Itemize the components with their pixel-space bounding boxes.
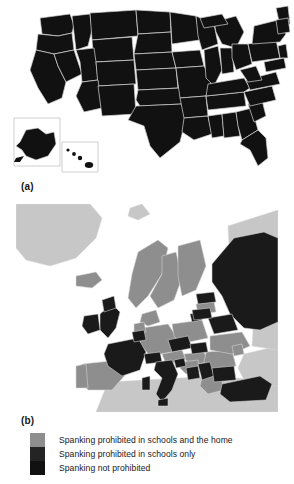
united-states-map-svg bbox=[0, 0, 294, 180]
legend-swatch-icon-schools-and-home bbox=[30, 433, 45, 447]
country-slovakia bbox=[190, 342, 208, 354]
hawaii-island-1 bbox=[66, 148, 69, 151]
legend-item-not-prohibited: Spanking not prohibited bbox=[30, 461, 280, 475]
legend-item-prohibited-schools-and-home: Spanking prohibited in schools and the h… bbox=[30, 433, 280, 447]
europe-map-panel bbox=[16, 204, 278, 412]
state-colorado bbox=[96, 60, 136, 86]
legend-swatch-icon-schools-only bbox=[30, 447, 45, 461]
legend-swatch-icon-not-prohibited bbox=[30, 461, 45, 475]
state-wyoming bbox=[92, 37, 134, 62]
hawaii-island-3 bbox=[78, 156, 82, 160]
country-portugal bbox=[76, 364, 88, 388]
state-nebraska bbox=[134, 52, 176, 70]
europe-map-svg bbox=[16, 204, 278, 412]
state-oklahoma bbox=[136, 88, 182, 106]
legend-label-not-prohibited: Spanking not prohibited bbox=[59, 461, 150, 475]
country-bosnia bbox=[186, 366, 200, 380]
state-north-dakota bbox=[136, 10, 171, 34]
country-bulgaria bbox=[212, 366, 236, 382]
legend-item-prohibited-schools-only: Spanking prohibited in schools only bbox=[30, 447, 280, 461]
state-new-england bbox=[276, 18, 290, 34]
country-estonia bbox=[196, 292, 216, 304]
state-minnesota bbox=[170, 12, 200, 44]
country-slovenia bbox=[174, 358, 186, 368]
country-moldova bbox=[232, 344, 244, 356]
country-lithuania bbox=[192, 308, 212, 320]
country-italy-sardinia bbox=[142, 376, 150, 390]
state-new-mexico bbox=[98, 84, 136, 116]
figure-spanking-prohibition-maps: (a) bbox=[0, 0, 294, 484]
state-new-jersey bbox=[278, 44, 288, 58]
state-iowa bbox=[172, 50, 204, 68]
state-kansas bbox=[136, 68, 178, 90]
map-legend: Spanking prohibited in schools and the h… bbox=[30, 433, 280, 475]
country-belgium bbox=[132, 330, 146, 342]
hawaii-island-2 bbox=[72, 152, 76, 156]
united-states-map-panel bbox=[0, 0, 294, 180]
panel-label-a: (a) bbox=[21, 182, 34, 192]
state-washington bbox=[40, 14, 74, 36]
state-arkansas bbox=[180, 96, 208, 118]
state-montana bbox=[90, 10, 138, 40]
legend-label-schools-only: Spanking prohibited in schools only bbox=[59, 447, 195, 461]
state-south-dakota bbox=[134, 32, 172, 54]
hawaii-island-4 bbox=[85, 162, 93, 168]
panel-label-b: (b) bbox=[21, 416, 34, 426]
legend-label-schools-and-home: Spanking prohibited in schools and the h… bbox=[59, 433, 233, 447]
